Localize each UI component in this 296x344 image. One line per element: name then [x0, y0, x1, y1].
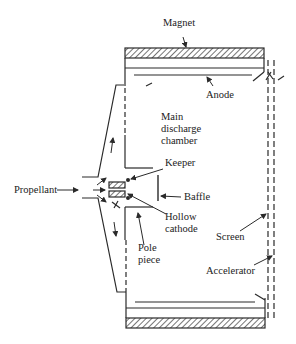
hollow-cathode-label-2: cathode [165, 223, 198, 235]
outer-pole-piece-upper [82, 85, 124, 177]
hollow-cathode-label-1: Hollow [165, 211, 197, 223]
pole-piece-label-1: Pole [138, 242, 157, 254]
keeper-dot-lower [126, 196, 130, 200]
pole-piece-label-2: piece [138, 254, 160, 266]
main-chamber-label-3: chamber [161, 135, 197, 147]
magnet-label: Magnet [163, 17, 195, 29]
hollow-cathode-upper [109, 182, 125, 188]
keeper-label: Keeper [165, 157, 195, 169]
pole-piece-leader [138, 213, 144, 245]
ion-thruster-diagram [0, 0, 296, 344]
main-chamber-label-2: discharge [161, 123, 201, 135]
keeper-dot-upper [126, 178, 130, 182]
outer-pole-piece-lower [82, 198, 126, 292]
main-chamber-label-1: Main [161, 111, 183, 123]
screen-leader [240, 214, 266, 231]
propellant-label: Propellant [14, 184, 57, 196]
top-magnet [125, 48, 264, 58]
hollow-cathode-leader [128, 194, 166, 214]
bottom-magnet [126, 318, 265, 328]
baffle-leader [161, 196, 181, 197]
baffle-label: Baffle [184, 191, 210, 203]
screen-label: Screen [216, 231, 245, 243]
magnet-leader [183, 37, 186, 47]
anode-label: Anode [206, 89, 234, 101]
hollow-cathode-lower [109, 191, 125, 197]
accelerator-leader [254, 256, 272, 265]
anode-leader [207, 77, 213, 86]
accelerator-label: Accelerator [206, 265, 255, 277]
